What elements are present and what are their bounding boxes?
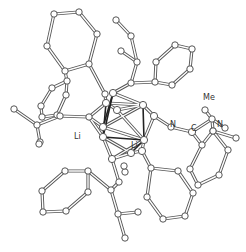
atom-rp1: [199, 142, 205, 148]
label-me: Me: [203, 93, 215, 102]
bond-inner: [111, 190, 118, 214]
atom-bl1: [62, 168, 68, 174]
atom-tr1: [153, 59, 159, 65]
atom-tr6: [152, 79, 158, 85]
atom-br4: [182, 213, 188, 219]
atom-tr5: [169, 82, 175, 88]
atom-c4: [150, 112, 157, 119]
atom-c5: [140, 136, 147, 143]
atom-tr3: [189, 46, 195, 52]
molecular-structure-diagram: Li Li N N C Me: [0, 0, 246, 252]
atom-rp4: [216, 172, 222, 178]
atom-bc3: [135, 209, 141, 215]
bond-inner: [89, 64, 105, 94]
atom-tl3: [94, 31, 100, 37]
bond-inner: [88, 171, 111, 190]
atom-tr2: [172, 42, 178, 48]
bond-inner: [47, 46, 65, 71]
atom-m1: [122, 169, 128, 175]
label-n-right: N: [170, 120, 176, 129]
bond-inner: [118, 214, 125, 238]
atom-bc4: [122, 235, 128, 241]
atom-li3: [38, 103, 44, 109]
atom-lb2: [34, 122, 40, 128]
bond-inner: [79, 12, 97, 34]
atom-lb3: [11, 106, 17, 112]
atom-rp6: [210, 128, 216, 134]
atom-tl2: [76, 9, 82, 15]
atom-bl3: [85, 189, 91, 195]
atom-br3: [190, 190, 196, 196]
atom-c2: [109, 89, 116, 96]
atom-tl4: [86, 61, 92, 67]
bond-inner: [66, 192, 88, 211]
atom-c7: [113, 106, 120, 113]
atom-li6: [63, 92, 69, 98]
atom-lb1: [57, 113, 63, 119]
label-n-far: N: [217, 120, 223, 129]
atom-c1: [102, 99, 109, 106]
bond-inner: [14, 109, 37, 125]
atom-lx: [36, 141, 42, 147]
atom-tl6: [44, 43, 50, 49]
atom-bl2: [85, 168, 91, 174]
atom-me: [202, 107, 208, 113]
bond-inner: [47, 14, 54, 46]
atom-m2: [121, 163, 127, 169]
atom-tl5: [62, 68, 68, 74]
atom-c6: [99, 133, 106, 140]
atom-tc2: [86, 114, 92, 120]
bond-inner: [65, 64, 89, 71]
atom-tr4: [187, 66, 193, 72]
atom-br1: [148, 165, 154, 171]
bond-inner: [147, 197, 163, 219]
atom-rp5: [225, 147, 231, 153]
bond-inner: [89, 34, 97, 64]
atom-br5: [160, 216, 166, 222]
bond-inner: [178, 171, 193, 193]
atom-c11: [99, 123, 106, 130]
atom-bc2: [115, 211, 121, 217]
atom-c8: [108, 155, 115, 162]
bond-inner: [156, 45, 175, 62]
atom-br6: [144, 194, 150, 200]
atom-rq2: [233, 135, 239, 141]
atom-c10: [138, 147, 145, 154]
bond-inner: [42, 171, 65, 191]
atom-tc5: [128, 33, 134, 39]
atom-c3: [139, 101, 146, 108]
bond-inner: [190, 145, 202, 169]
atom-rp3: [195, 182, 201, 188]
atom-bc1: [108, 187, 114, 193]
atom-br2: [175, 168, 181, 174]
label-c: C: [191, 124, 197, 133]
label-li-left: Li: [74, 132, 81, 141]
atom-bl5: [40, 209, 46, 215]
atom-rp2: [187, 166, 193, 172]
atom-bl6: [39, 188, 45, 194]
atom-n2: [209, 116, 215, 122]
atom-c9: [127, 149, 134, 156]
atom-tc4: [134, 59, 140, 65]
atom-li1: [64, 78, 70, 84]
atom-tc6: [118, 48, 124, 54]
atom-tc7: [113, 17, 119, 23]
bond-inner: [219, 150, 228, 175]
atom-tl1: [51, 11, 57, 17]
atom-bc5: [116, 179, 122, 185]
atom-bl4: [63, 208, 69, 214]
bond-inner: [60, 116, 89, 117]
atom-tc1: [102, 91, 108, 97]
atom-li2: [49, 85, 55, 91]
label-li-center: Li: [131, 141, 138, 150]
li-li-bond: [143, 105, 144, 140]
atom-li4: [39, 114, 45, 120]
atom-tc3: [128, 80, 134, 86]
